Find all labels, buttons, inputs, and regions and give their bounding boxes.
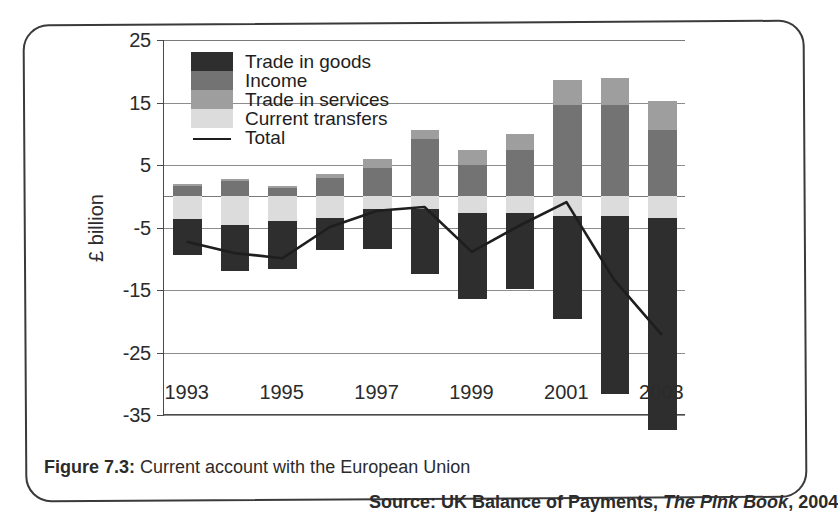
bar-group-2002[interactable] <box>601 40 629 414</box>
bar-segment-goods-1996 <box>316 218 344 251</box>
bar-segment-services-2003 <box>648 101 676 130</box>
legend-swatch-total-icon <box>191 128 233 147</box>
legend-label-goods: Trade in goods <box>245 52 371 71</box>
legend-label-services: Trade in services <box>245 90 389 109</box>
bar-segment-transfers-2002 <box>601 196 629 216</box>
bar-segment-income-1996 <box>316 178 344 197</box>
legend-swatch-services-icon <box>191 90 233 109</box>
y-axis-label--5: -5 <box>0 216 151 239</box>
legend-swatch-income-icon <box>191 71 233 90</box>
bar-group-1998[interactable] <box>411 40 439 414</box>
bar-segment-transfers-2000 <box>506 196 534 212</box>
bar-segment-goods-1994 <box>221 225 249 271</box>
bar-segment-transfers-1994 <box>221 196 249 225</box>
bar-segment-services-1993 <box>173 184 201 187</box>
x-axis-label-1995: 1995 <box>259 381 304 404</box>
bar-segment-goods-2001 <box>553 216 581 319</box>
bar-segment-goods-1999 <box>458 213 486 299</box>
bar-segment-goods-1998 <box>411 209 439 274</box>
bar-segment-services-1994 <box>221 179 249 182</box>
bar-segment-income-2000 <box>506 150 534 196</box>
figure-caption: Figure 7.3: Current account with the Eur… <box>44 457 470 478</box>
x-axis-label-1997: 1997 <box>354 381 399 404</box>
bar-group-2000[interactable] <box>506 40 534 414</box>
bar-segment-goods-2000 <box>506 213 534 289</box>
y-tick--35 <box>157 415 164 416</box>
bar-segment-services-1999 <box>458 150 486 165</box>
y-tick-25 <box>157 40 164 41</box>
legend-item-transfers: Current transfers <box>191 109 389 128</box>
y-axis-label--15: -15 <box>0 279 151 302</box>
x-axis-label-1999: 1999 <box>449 381 494 404</box>
legend-item-goods: Trade in goods <box>191 52 389 71</box>
bar-segment-transfers-2003 <box>648 196 676 217</box>
y-tick-5 <box>157 165 164 166</box>
legend-swatch-transfers-icon <box>191 109 233 128</box>
bar-segment-goods-1993 <box>173 219 201 255</box>
bar-group-1999[interactable] <box>458 40 486 414</box>
bar-segment-income-1994 <box>221 181 249 196</box>
bar-segment-transfers-1999 <box>458 196 486 212</box>
y-axis-label--25: -25 <box>0 341 151 364</box>
x-axis-label-2001: 2001 <box>544 381 589 404</box>
x-axis-label-2003: 2003 <box>639 381 684 404</box>
bar-group-2003[interactable] <box>648 40 676 414</box>
bar-segment-services-2001 <box>553 80 581 105</box>
legend-item-total: Total <box>191 128 389 147</box>
gridline--35 <box>164 415 685 416</box>
legend-label-total: Total <box>245 128 285 147</box>
bar-segment-goods-1995 <box>268 221 296 269</box>
bar-segment-services-1997 <box>363 159 391 168</box>
legend-item-income: Income <box>191 71 389 90</box>
y-axis-label-15: 15 <box>0 91 151 114</box>
bar-segment-income-1999 <box>458 165 486 196</box>
y-axis-label-5: 5 <box>0 154 151 177</box>
bar-segment-goods-2002 <box>601 216 629 394</box>
bar-segment-income-2001 <box>553 105 581 196</box>
chart-legend: Trade in goodsIncomeTrade in servicesCur… <box>191 52 389 147</box>
legend-label-transfers: Current transfers <box>245 109 388 128</box>
bar-segment-transfers-1995 <box>268 196 296 221</box>
bar-segment-income-2002 <box>601 105 629 196</box>
bar-segment-services-1995 <box>268 186 296 187</box>
bar-segment-transfers-1998 <box>411 196 439 209</box>
source-prefix: Source: UK Balance of Payments, <box>369 492 658 512</box>
bar-segment-transfers-1996 <box>316 196 344 217</box>
source-publication: The Pink Book <box>663 492 788 512</box>
legend-item-services: Trade in services <box>191 90 389 109</box>
figure-caption-text: Current account with the European Union <box>140 457 470 477</box>
bar-segment-income-1997 <box>363 168 391 197</box>
y-axis-label--35: -35 <box>0 404 151 427</box>
bar-segment-goods-1997 <box>363 209 391 249</box>
bar-segment-services-2000 <box>506 134 534 150</box>
legend-swatch-goods-icon <box>191 52 233 71</box>
bar-segment-services-1996 <box>316 174 344 178</box>
y-tick--5 <box>157 228 164 229</box>
figure-source: Source: UK Balance of Payments, The Pink… <box>369 492 838 513</box>
bar-segment-income-1998 <box>411 139 439 197</box>
bar-segment-transfers-2001 <box>553 196 581 216</box>
bar-segment-income-2003 <box>648 130 676 196</box>
bar-segment-services-2002 <box>601 78 629 106</box>
bar-segment-services-1998 <box>411 130 439 139</box>
bar-segment-transfers-1993 <box>173 196 201 219</box>
y-tick--15 <box>157 290 164 291</box>
y-tick-15 <box>157 103 164 104</box>
y-axis-label-25: 25 <box>0 29 151 52</box>
figure-number: Figure 7.3: <box>44 457 135 477</box>
x-axis-label-1993: 1993 <box>164 381 209 404</box>
bar-segment-income-1995 <box>268 188 296 197</box>
legend-label-income: Income <box>245 71 307 90</box>
source-year: , 2004 <box>788 492 838 512</box>
bar-segment-transfers-1997 <box>363 196 391 209</box>
y-tick--25 <box>157 353 164 354</box>
bar-group-2001[interactable] <box>553 40 581 414</box>
bar-segment-income-1993 <box>173 186 201 196</box>
